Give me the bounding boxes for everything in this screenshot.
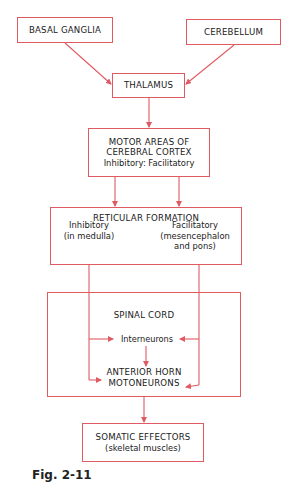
- rf-facilitatory-line2: (mesencephalon: [152, 231, 238, 242]
- thalamus-label: THALAMUS: [124, 80, 173, 91]
- anterior-horn-line1: ANTERIOR HORN: [98, 367, 190, 378]
- interneurons-label: Interneurons: [112, 334, 182, 344]
- node-thalamus: THALAMUS: [112, 73, 185, 98]
- cerebellum-label: CEREBELLUM: [204, 27, 263, 38]
- somatic-effectors-line1: SOMATIC EFFECTORS: [96, 432, 191, 443]
- node-basal-ganglia: BASAL GANGLIA: [17, 17, 113, 43]
- node-motor-areas: MOTOR AREAS OF CEREBRAL CORTEX Inhibitor…: [88, 128, 210, 177]
- basal-ganglia-label: BASAL GANGLIA: [29, 25, 101, 36]
- node-cerebellum: CEREBELLUM: [186, 19, 281, 45]
- anterior-horn-line2: MOTONEURONS: [98, 378, 190, 389]
- arrow-basal-to-thalamus: [65, 43, 111, 84]
- motor-areas-line2: CEREBRAL CORTEX: [106, 147, 191, 158]
- spinal-cord-title: SPINAL CORD: [114, 310, 175, 321]
- node-somatic-effectors: SOMATIC EFFECTORS (skeletal muscles): [82, 423, 204, 462]
- rf-facilitatory-line3: and pons): [152, 241, 238, 252]
- motor-areas-line1: MOTOR AREAS OF: [109, 137, 190, 148]
- figure-caption: Fig. 2-11: [32, 468, 92, 482]
- arrow-cerebellum-to-thalamus: [186, 45, 234, 84]
- anterior-horn-motoneurons: ANTERIOR HORN MOTONEURONS: [98, 367, 190, 388]
- rf-inhibitory-line2: (in medulla): [57, 231, 121, 242]
- rf-facilitatory-line1: Facilitatory: [152, 220, 238, 231]
- motor-areas-line3: Inhibitory: Facilitatory: [104, 158, 195, 169]
- somatic-effectors-line2: (skeletal muscles): [105, 443, 181, 454]
- rf-facilitatory: Facilitatory (mesencephalon and pons): [152, 220, 238, 252]
- rf-inhibitory: Inhibitory (in medulla): [57, 220, 121, 241]
- rf-inhibitory-line1: Inhibitory: [57, 220, 121, 231]
